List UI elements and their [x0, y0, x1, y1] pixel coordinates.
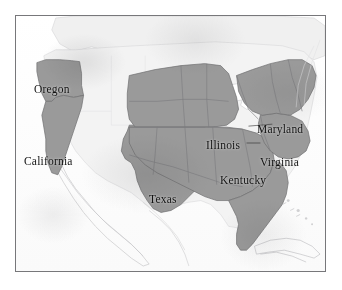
- map-frame: Oregon California Illinois Maryland Virg…: [15, 15, 326, 272]
- map-canvas: [16, 16, 325, 271]
- map-label-maryland[interactable]: Maryland: [257, 123, 303, 135]
- map-label-texas[interactable]: Texas: [149, 193, 177, 205]
- state-oregon[interactable]: [37, 60, 84, 102]
- map-label-oregon[interactable]: Oregon: [34, 83, 70, 95]
- map-label-kentucky[interactable]: Kentucky: [220, 174, 266, 186]
- map-label-california[interactable]: California: [24, 155, 73, 167]
- map-label-virginia[interactable]: Virginia: [260, 156, 299, 168]
- map-figure: Oregon California Illinois Maryland Virg…: [0, 0, 342, 290]
- map-label-illinois[interactable]: Illinois: [206, 139, 240, 151]
